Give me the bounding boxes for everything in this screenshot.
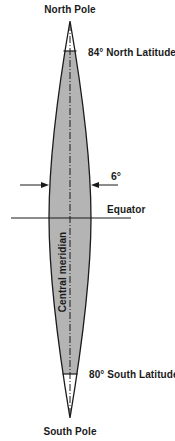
width-arrow-right-head (91, 182, 99, 188)
width-arrow-left-head (41, 182, 49, 188)
south-pole-label: South Pole (43, 426, 97, 437)
equator-label: Equator (107, 204, 145, 215)
north-pole-label: North Pole (44, 4, 96, 15)
zone-width-label: 6° (111, 170, 121, 182)
gore-diagram: North Pole 84° North Latitude 6° Equator… (0, 0, 175, 441)
south-limit-label: 80° South Latitude (89, 369, 175, 380)
central-meridian-label: Central meridian (57, 232, 68, 313)
north-limit-label: 84° North Latitude (88, 47, 175, 58)
